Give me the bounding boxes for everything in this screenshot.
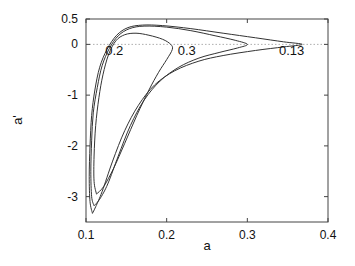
x-tick-label: 0.3 xyxy=(239,228,256,242)
x-axis-title: a xyxy=(203,238,211,253)
x-tick-label: 0.2 xyxy=(158,228,175,242)
y-tick-label: 0 xyxy=(71,37,78,51)
y-tick-label: -1 xyxy=(67,88,78,102)
y-axis-title: a' xyxy=(10,115,25,125)
x-tick-label: 0.4 xyxy=(320,228,337,242)
x-tick-label: 0.1 xyxy=(78,228,95,242)
y-tick-label: -3 xyxy=(67,190,78,204)
y-tick-label: -2 xyxy=(67,139,78,153)
curve-label-0.2: 0.2 xyxy=(105,43,123,58)
curve-label-0.3: 0.3 xyxy=(178,43,196,58)
curve-label-0.13: 0.13 xyxy=(279,43,304,58)
y-tick-label: 0.5 xyxy=(61,12,78,26)
chart: 0.10.20.30.40.50-1-2-3 0.130.30.2 a a' xyxy=(0,0,355,266)
